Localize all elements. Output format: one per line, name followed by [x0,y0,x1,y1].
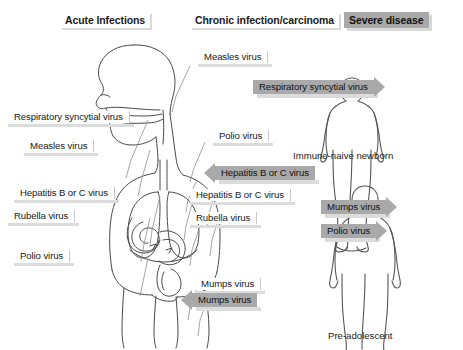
label-measles-virus-chronic: Measles virus [198,50,268,64]
label-text: Measles virus [198,51,268,63]
arrow-left-icon [181,290,192,310]
label-text: Rubella virus [190,212,257,224]
diagram-canvas: Acute Infections Chronic infection/carci… [0,0,463,350]
column-header-severe-disease: Severe disease [344,12,429,28]
label-polio-virus-severe: Polio virus [321,224,376,238]
label-rubella-virus-chronic: Rubella virus [190,211,257,225]
label-text: Mumps virus [192,294,257,306]
label-text: Respiratory syncytial virus [253,81,374,93]
label-mumps-virus-chronic: Mumps virus [195,277,261,291]
label-respiratory-syncytial-virus-acute: Respiratory syncytial virus [8,110,130,124]
label-hepatitis-b-or-c-virus-acute: Hepatitis B or C virus [14,186,115,200]
label-hepatitis-b-or-c-virus-chronic: Hepatitis B or C virus [190,188,291,202]
label-text: Polio virus [321,225,376,237]
label-hepatitis-b-or-c-virus-chronic-gray: Hepatitis B or C virus [215,166,315,180]
column-header-chronic-infection: Chronic infection/carcinoma [190,12,339,28]
label-text: Mumps virus [321,201,386,213]
label-mumps-virus-chronic-gray: Mumps virus [192,293,257,307]
label-text: Polio virus [14,250,70,262]
label-measles-virus-acute: Measles virus [24,139,94,153]
arrow-right-icon [374,77,385,97]
column-header-acute-infections: Acute Infections [60,12,150,28]
label-text: Measles virus [24,140,94,152]
label-text: Hepatitis B or C virus [190,189,291,201]
label-respiratory-syncytial-virus-severe: Respiratory syncytial virus [253,80,374,94]
label-rubella-virus-acute: Rubella virus [8,209,75,223]
label-text: Mumps virus [195,278,261,290]
label-polio-virus-chronic: Polio virus [213,129,269,143]
label-text: Rubella virus [8,210,75,222]
caption-pre-adolescent: Pre-adolescent [328,330,393,341]
arrow-right-icon [376,221,387,241]
label-text: Hepatitis B or C virus [215,167,315,179]
label-text: Hepatitis B or C virus [14,187,115,199]
caption-immune-naive-newborn: Immune-naive newborn [293,150,393,161]
label-mumps-virus-severe: Mumps virus [321,200,386,214]
arrow-left-icon [204,163,215,183]
label-text: Respiratory syncytial virus [8,111,130,123]
arrow-right-icon [386,197,397,217]
label-text: Polio virus [213,130,269,142]
label-polio-virus-acute: Polio virus [14,249,70,263]
